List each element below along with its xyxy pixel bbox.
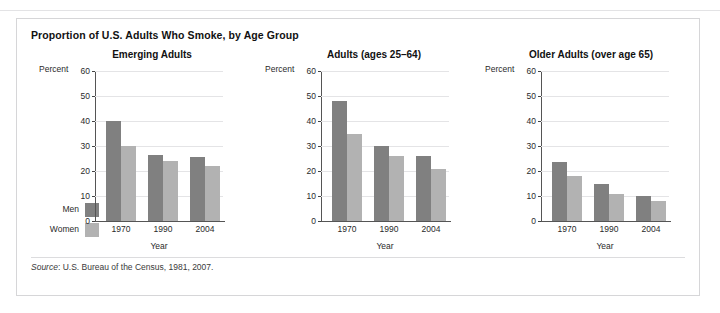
bar-men-1990 (374, 146, 389, 221)
y-tick-label: 20 (81, 166, 90, 176)
figure-title: Proportion of U.S. Adults Who Smoke, by … (31, 29, 299, 41)
bars-2 (322, 71, 450, 221)
y-tick-mark (318, 171, 321, 172)
source-note: Source: U.S. Bureau of the Census, 1981,… (31, 262, 213, 272)
y-axis-unit-3: Percent (485, 64, 514, 74)
x-axis-line-1 (95, 221, 225, 222)
y-tick-label: 30 (81, 141, 90, 151)
x-tick-label: 1990 (141, 224, 185, 234)
y-tick-mark (318, 121, 321, 122)
bar-group (636, 71, 666, 221)
source-text: : U.S. Bureau of the Census, 1981, 2007. (58, 262, 213, 272)
bar-group (374, 71, 404, 221)
plot-area-1: Percent 0102030405060 197019902004 Year (95, 71, 223, 221)
bar-group (106, 71, 136, 221)
bar-men-1990 (594, 184, 609, 222)
y-tick-label: 40 (81, 116, 90, 126)
x-tick-label: 1970 (325, 224, 369, 234)
bar-women-2004 (651, 201, 666, 221)
y-tick-mark (92, 121, 95, 122)
x-tick-label: 2004 (629, 224, 673, 234)
y-tick-label: 0 (531, 216, 536, 226)
y-tick-mark (538, 71, 541, 72)
y-tick-label: 20 (527, 166, 536, 176)
y-tick-mark (92, 71, 95, 72)
y-tick-label: 50 (527, 91, 536, 101)
plot-area-3: Percent 0102030405060 197019902004 Year (541, 71, 669, 221)
chart-panel-emerging-adults: Emerging Adults Percent 0102030405060 19… (35, 49, 247, 249)
bar-women-2004 (205, 166, 220, 221)
x-axis-title-1: Year (95, 241, 223, 251)
y-tick-label: 20 (307, 166, 316, 176)
y-tick-label: 40 (307, 116, 316, 126)
y-tick-mark (92, 196, 95, 197)
y-tick-mark (538, 96, 541, 97)
y-tick-mark (318, 221, 321, 222)
y-tick-mark (538, 171, 541, 172)
y-tick-mark (92, 171, 95, 172)
bars-1 (96, 71, 224, 221)
y-tick-label: 30 (527, 141, 536, 151)
x-axis-title-2: Year (321, 241, 449, 251)
bar-women-2004 (431, 169, 446, 222)
page-top-divider (0, 10, 720, 11)
bar-women-1990 (389, 156, 404, 221)
chart-panel-older-adults: Older Adults (over age 65) Percent 01020… (481, 49, 693, 249)
bar-men-1970 (552, 162, 567, 221)
bar-men-2004 (416, 156, 431, 221)
x-axis-title-3: Year (541, 241, 669, 251)
y-tick-label: 0 (85, 216, 90, 226)
y-tick-label: 10 (527, 191, 536, 201)
y-tick-mark (318, 71, 321, 72)
y-tick-mark (92, 221, 95, 222)
y-tick-label: 10 (81, 191, 90, 201)
y-tick-label: 60 (81, 66, 90, 76)
x-tick-label: 2004 (183, 224, 227, 234)
x-axis-line-3 (541, 221, 671, 222)
bar-group (148, 71, 178, 221)
y-axis-unit-2: Percent (265, 64, 294, 74)
x-tick-label: 1990 (367, 224, 411, 234)
chart-panel-adults: Adults (ages 25–64) Percent 010203040506… (261, 49, 473, 249)
bar-men-1990 (148, 155, 163, 221)
x-tick-label: 1990 (587, 224, 631, 234)
bar-women-1990 (609, 194, 624, 222)
y-tick-mark (92, 96, 95, 97)
y-tick-label: 50 (81, 91, 90, 101)
plot-area-2: Percent 0102030405060 197019902004 Year (321, 71, 449, 221)
bar-group (416, 71, 446, 221)
bar-men-2004 (636, 196, 651, 221)
bar-group (552, 71, 582, 221)
y-tick-mark (318, 146, 321, 147)
bar-men-1970 (106, 121, 121, 221)
y-tick-mark (318, 196, 321, 197)
y-tick-mark (538, 221, 541, 222)
bar-women-1970 (347, 134, 362, 222)
chart-title-3: Older Adults (over age 65) (489, 49, 693, 60)
y-tick-label: 50 (307, 91, 316, 101)
source-divider (31, 257, 685, 258)
x-tick-label: 1970 (545, 224, 589, 234)
bar-group (594, 71, 624, 221)
bar-men-1970 (332, 101, 347, 221)
y-tick-label: 10 (307, 191, 316, 201)
y-tick-mark (318, 96, 321, 97)
y-tick-mark (92, 146, 95, 147)
y-tick-mark (538, 196, 541, 197)
y-tick-mark (538, 146, 541, 147)
y-tick-mark (538, 121, 541, 122)
bar-men-2004 (190, 157, 205, 221)
y-tick-label: 0 (311, 216, 316, 226)
x-tick-label: 1970 (99, 224, 143, 234)
figure-card: Proportion of U.S. Adults Who Smoke, by … (16, 18, 700, 296)
bars-3 (542, 71, 670, 221)
source-prefix: Source (31, 262, 58, 272)
y-tick-label: 60 (307, 66, 316, 76)
bar-group (332, 71, 362, 221)
y-axis-unit-1: Percent (39, 64, 68, 74)
y-tick-label: 30 (307, 141, 316, 151)
bar-group (190, 71, 220, 221)
y-tick-label: 60 (527, 66, 536, 76)
chart-title-2: Adults (ages 25–64) (275, 49, 473, 60)
bar-women-1970 (567, 176, 582, 221)
